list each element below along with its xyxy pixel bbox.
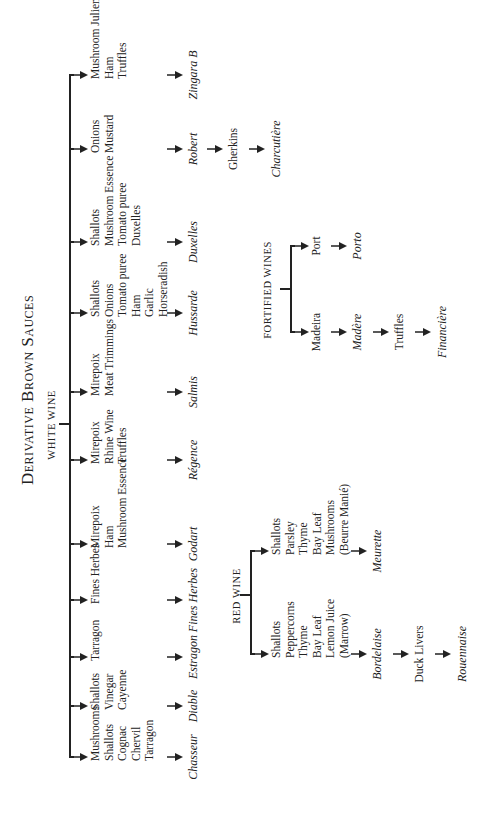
red-wine-stem xyxy=(240,594,250,596)
ingredient: Gherkins xyxy=(227,128,239,170)
ingredient: Fines Herbes xyxy=(89,544,103,604)
arrow-down-icon xyxy=(393,650,409,659)
diagram-canvas: Derivative Brown Sauces WHITE WINE Mushr… xyxy=(0,0,503,831)
ingredient: Horseradish xyxy=(157,254,171,317)
ingredient: Mushroom Essence xyxy=(103,156,117,246)
arrow-down-icon xyxy=(249,145,265,154)
ingredient: Vinegar xyxy=(103,670,117,710)
wine-name: Madeira xyxy=(310,313,322,351)
arrow-down-icon xyxy=(72,309,88,318)
sauce-name: Régence xyxy=(186,440,201,481)
ingredient-list: MirepoixHamMushroom Essence xyxy=(89,458,130,548)
ingredient: Mushroom Essence xyxy=(116,458,130,548)
sauce-name: Diable xyxy=(186,690,201,723)
white-wine-stem xyxy=(59,423,69,425)
arrow-down-icon xyxy=(207,145,223,154)
ingredient: Thyme xyxy=(297,484,311,555)
sauce-name: Fines Herbes xyxy=(186,568,201,632)
arrow-down-icon xyxy=(167,653,183,662)
fortified-wines-bracket xyxy=(290,246,292,333)
ingredient: Onions xyxy=(89,115,103,153)
sauce-name: Madère xyxy=(350,314,365,351)
sauce-name: Financière xyxy=(435,306,450,358)
arrow-down-icon xyxy=(167,540,183,549)
red-wine-bracket xyxy=(250,551,252,655)
ingredient: Shallots xyxy=(270,484,284,555)
ingredient: Shallots xyxy=(89,254,103,317)
arrow-down-icon xyxy=(167,596,183,605)
arrow-down-icon xyxy=(72,702,88,711)
ingredient: Truffles xyxy=(393,314,405,350)
ingredient: Meat Trimmings xyxy=(103,319,117,396)
arrow-down-icon xyxy=(435,650,451,659)
arrow-down-icon xyxy=(331,242,347,251)
ingredient: Tomato puree xyxy=(116,156,130,246)
ingredient: Ham xyxy=(130,254,144,317)
fortified-wines-label: FORTIFIED WINES xyxy=(262,241,273,339)
ingredient: Truffles xyxy=(116,409,130,464)
arrow-down-icon xyxy=(351,547,367,556)
ingredient: Mushrooms xyxy=(324,484,338,555)
arrow-down-icon xyxy=(167,238,183,247)
arrow-down-icon xyxy=(167,309,183,318)
sauce-name: Zingara B xyxy=(186,50,201,99)
ingredient-list: ShallotsParsleyThymeBay LeafMushrooms(Be… xyxy=(270,484,352,555)
ingredient: Truffles xyxy=(116,0,130,79)
sauce-name: Estragon xyxy=(186,635,201,679)
ingredient: Duck Livers xyxy=(413,625,425,682)
arrow-down-icon xyxy=(72,145,88,154)
ingredient: Rhine Wine xyxy=(103,409,117,464)
white-wine-label: WHITE WINE xyxy=(46,390,57,460)
ingredient: Bay Leaf xyxy=(311,599,325,658)
ingredient: Shallots xyxy=(103,706,117,761)
ingredient-list: Fines Herbes xyxy=(89,544,103,604)
ingredient: Lemon Juice xyxy=(324,599,338,658)
arrow-down-icon xyxy=(72,753,88,762)
sauce-name: Bordelaise xyxy=(370,628,385,680)
ingredient-list: ShallotsPeppercornsThymeBay LeafLemon Ju… xyxy=(270,599,352,658)
arrow-down-icon xyxy=(72,653,88,662)
ingredient-list: Mushroom JulienneHamTruffles xyxy=(89,0,130,79)
arrow-down-icon xyxy=(415,328,431,337)
ingredient: Ham xyxy=(103,458,117,548)
arrow-down-icon xyxy=(167,71,183,80)
ingredient: Parsley xyxy=(284,484,298,555)
arrow-down-icon xyxy=(72,238,88,247)
sauce-name: Duxelles xyxy=(186,221,201,263)
ingredient: Peppercorns xyxy=(284,599,298,658)
ingredient: Mustard xyxy=(103,115,117,153)
arrow-down-icon xyxy=(167,145,183,154)
ingredient: Shallots xyxy=(89,670,103,710)
arrow-down-icon xyxy=(167,456,183,465)
arrow-down-icon xyxy=(167,753,183,762)
arrow-down-icon xyxy=(167,388,183,397)
ingredient: Bay Leaf xyxy=(311,484,325,555)
ingredient: Cognac xyxy=(116,706,130,761)
ingredient: Mushrooms xyxy=(89,706,103,761)
sauce-name: Chasseur xyxy=(186,734,201,779)
sauce-name: Charcutière xyxy=(269,120,284,177)
arrow-down-icon xyxy=(72,71,88,80)
ingredient: Onions xyxy=(103,254,117,317)
fortified-wines-stem xyxy=(280,288,290,290)
sauce-name: Godart xyxy=(186,527,201,562)
arrow-down-icon xyxy=(373,328,389,337)
sauce-name: Robert xyxy=(186,133,201,166)
sauce-name: Rouennaise xyxy=(455,626,470,682)
ingredient: (Beurre Manié) xyxy=(338,484,352,555)
ingredient-list: MushroomsShallotsCognacChervilTarragon xyxy=(89,706,157,761)
ingredient: Garlic xyxy=(143,254,157,317)
arrow-down-icon xyxy=(331,328,347,337)
ingredient: Mushroom Julienne xyxy=(89,0,103,79)
arrow-down-icon xyxy=(167,702,183,711)
wine-name: Port xyxy=(310,236,322,255)
arrow-down-icon xyxy=(253,547,269,556)
diagram-title: Derivative Brown Sauces xyxy=(18,295,38,485)
ingredient-list: ShallotsOnionsTomato pureeHamGarlicHorse… xyxy=(89,254,171,317)
ingredient: Shallots xyxy=(270,599,284,658)
ingredient: Cayenne xyxy=(116,670,130,710)
ingredient: Tomato puree xyxy=(116,254,130,317)
arrow-down-icon xyxy=(72,388,88,397)
arrow-down-icon xyxy=(72,596,88,605)
arrow-down-icon xyxy=(293,242,309,251)
